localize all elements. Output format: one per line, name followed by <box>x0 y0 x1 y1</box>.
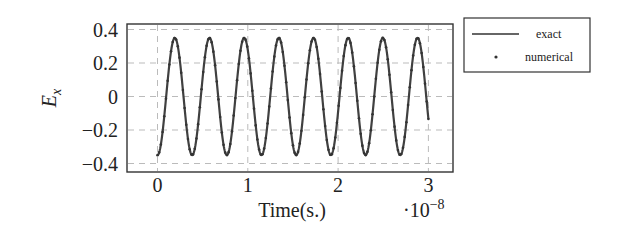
y-tick-label: −0.4 <box>82 153 118 175</box>
y-tick-label: 0 <box>108 86 118 108</box>
y-tick-label: 0.2 <box>93 52 118 74</box>
legend-numerical-dot-icon <box>494 55 497 58</box>
y-tick-label: −0.2 <box>82 119 118 141</box>
x-scale-factor: ·10−8 <box>403 197 445 221</box>
x-tick-label: 0 <box>153 174 163 196</box>
legend-numerical-label: numerical <box>525 50 574 64</box>
chart: 0.40.20−0.2−0.4 0123 Time(s.) ·10−8 Ex e… <box>0 0 621 238</box>
x-tick-label: 3 <box>423 174 433 196</box>
y-axis-label: Ex <box>38 88 64 108</box>
svg-text:·10−8: ·10−8 <box>403 197 445 221</box>
y-tick-labels: 0.40.20−0.2−0.4 <box>82 19 118 175</box>
x-tick-label: 2 <box>333 174 343 196</box>
x-tick-labels: 0123 <box>153 174 434 196</box>
plot-frame <box>127 24 453 172</box>
x-axis-label: Time(s.) <box>258 199 326 222</box>
y-tick-label: 0.4 <box>93 19 118 41</box>
legend-exact-label: exact <box>536 27 562 41</box>
svg-text:Ex: Ex <box>38 88 64 108</box>
legend: exact numerical <box>464 18 590 72</box>
x-tick-label: 1 <box>243 174 253 196</box>
